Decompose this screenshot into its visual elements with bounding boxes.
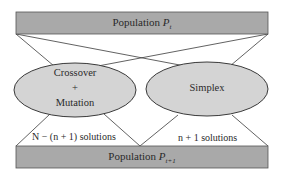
crossover-label: Crossover bbox=[14, 67, 136, 78]
simplex-label: Simplex bbox=[146, 82, 268, 93]
mutation-label: Mutation bbox=[14, 97, 136, 108]
population-t-label: Population Pt bbox=[16, 16, 268, 31]
label-subscript: t bbox=[170, 23, 172, 31]
right-output-label: n + 1 solutions bbox=[178, 132, 237, 143]
label-text: Population bbox=[108, 150, 156, 162]
label-text: Population bbox=[112, 16, 160, 28]
label-subscript: t+1 bbox=[165, 157, 175, 165]
label-symbol: P bbox=[163, 16, 170, 28]
population-t1-label: Population Pt+1 bbox=[16, 150, 268, 165]
plus-label: + bbox=[14, 82, 136, 93]
left-output-label: N − (n + 1) solutions bbox=[32, 131, 116, 142]
